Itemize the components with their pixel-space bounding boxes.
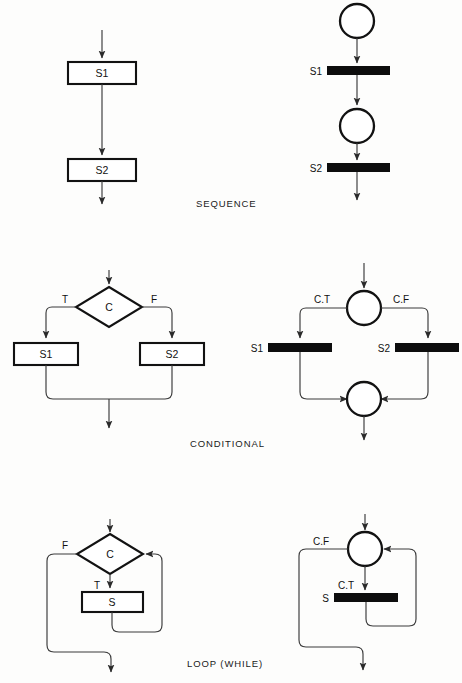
process-box-s2-label: S2 [166, 348, 179, 360]
conditional-flowchart: C T F S1 S2 [14, 270, 204, 428]
transition-s1-label: S1 [251, 343, 264, 354]
process-box-s1-label: S1 [40, 348, 53, 360]
transition-s2-label: S2 [310, 163, 323, 174]
transition-s2[interactable] [327, 163, 390, 172]
branch-label-false: F [62, 540, 68, 551]
figure-canvas: S1 S2 S1 S2 SEQUENCE C T F [0, 0, 462, 683]
place-middle[interactable] [340, 109, 374, 143]
diagram-svg: S1 S2 S1 S2 SEQUENCE C T F [0, 0, 462, 683]
loop-petrinet: C.F C.T S [299, 514, 416, 670]
decision-label-c: C [106, 548, 114, 560]
transition-s1[interactable] [268, 343, 332, 352]
transition-s2[interactable] [395, 343, 459, 352]
arc-label-true: C.T [338, 580, 354, 591]
transition-s-label: S [322, 593, 329, 604]
process-box-s1-label: S1 [96, 67, 109, 79]
decision-label-c: C [105, 301, 113, 313]
caption-loop: LOOP (WHILE) [187, 658, 263, 669]
process-box-s2-label: S2 [96, 164, 109, 176]
edge-join-right [109, 365, 172, 399]
branch-label-false: F [151, 294, 157, 305]
transition-s1[interactable] [327, 66, 390, 75]
caption-sequence: SEQUENCE [196, 198, 257, 209]
arc-false-exit [299, 549, 363, 670]
edge-true-branch [46, 307, 76, 338]
branch-label-true: T [62, 294, 68, 305]
sequence-petrinet: S1 S2 [310, 4, 390, 200]
process-box-s-label: S [108, 596, 115, 608]
arc-label-false: C.F [393, 294, 409, 305]
arc-label-true: C.T [314, 294, 330, 305]
place-decision[interactable] [348, 532, 382, 566]
arc-true-branch [300, 308, 347, 338]
arc-join-right [381, 352, 428, 399]
conditional-petrinet: C.T C.F S1 S2 [251, 263, 459, 440]
place-start[interactable] [340, 4, 374, 38]
transition-s2-label: S2 [378, 343, 391, 354]
arc-join-left [300, 352, 347, 399]
arc-label-false: C.F [313, 536, 329, 547]
place-join[interactable] [347, 382, 381, 416]
place-decision[interactable] [347, 291, 381, 325]
arc-false-branch [381, 308, 428, 338]
transition-s[interactable] [334, 593, 398, 602]
caption-conditional: CONDITIONAL [190, 438, 265, 449]
edge-false-branch [142, 307, 172, 338]
loop-flowchart: C F T S [47, 519, 162, 672]
branch-label-true: T [94, 580, 100, 591]
sequence-flowchart: S1 S2 [68, 30, 136, 204]
edge-join-left [46, 365, 109, 399]
transition-s1-label: S1 [310, 66, 323, 77]
